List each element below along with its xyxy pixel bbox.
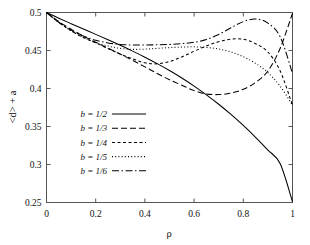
y-tick-label: 0.3 [30,160,42,170]
y-tick-label: 0.4 [30,84,42,94]
legend-label-b-1-4: b = 1/4 [80,138,107,148]
legend-label-b-1-3: b = 1/3 [80,123,107,133]
chart-figure: 0.250.30.350.40.450.5 00.20.40.60.81 b =… [0,0,310,245]
series-line-b-1-3 [47,13,293,95]
y-axis-title: <d> + a [7,90,18,123]
series-line-b-1-5 [47,13,293,106]
x-axis-tick-labels: 00.20.40.60.81 [44,209,295,219]
legend-label-b-1-2: b = 1/2 [80,109,107,119]
legend-label-b-1-6: b = 1/6 [80,166,107,176]
x-tick-label: 0 [44,209,49,219]
chart-legend: b = 1/2b = 1/3b = 1/4b = 1/5b = 1/6 [80,109,146,176]
line-chart: 0.250.30.350.40.450.5 00.20.40.60.81 b =… [0,0,310,245]
x-tick-label: 0.4 [139,209,151,219]
x-tick-label: 0.8 [237,209,249,219]
y-tick-label: 0.35 [25,122,42,132]
x-tick-label: 1 [290,209,295,219]
x-tick-label: 0.2 [90,209,102,219]
legend-label-b-1-5: b = 1/5 [80,152,107,162]
y-axis-tick-labels: 0.250.30.350.40.450.5 [25,8,42,208]
y-tick-label: 0.5 [30,8,42,18]
y-tick-label: 0.45 [25,46,42,56]
series-line-b-1-4 [47,13,293,106]
y-tick-label: 0.25 [25,198,42,208]
x-axis-title: ρ [166,228,171,239]
series-line-b-1-6 [47,13,293,74]
x-tick-label: 0.6 [188,209,200,219]
